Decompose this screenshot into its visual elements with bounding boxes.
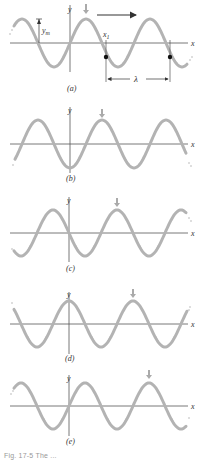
panel-label: (c) [66,264,75,273]
wave-dots-left [12,390,14,392]
panel-label: (a) [67,84,77,93]
x-axis-label: x [190,320,195,329]
wave-dots-left [11,248,13,250]
panel-e: x y (e) [10,370,195,446]
y-axis-label: y [66,374,71,383]
wave-dots-left [12,164,14,166]
y-axis-label: y [66,196,71,205]
y-axis-label: y [66,290,71,299]
crest-marker-arrow-icon [146,370,152,379]
panel-label: (e) [66,437,75,446]
traveling-wave-figure: x y ym x1 λ (a) x y [0,0,203,463]
y-axis-label: y [67,106,72,115]
amplitude-label: ym [41,26,51,36]
wave-dots-right [189,306,191,308]
wave-dots-right [188,309,190,311]
wave-dots-left [9,33,11,35]
point-x1-plus-lambda-dot [168,55,172,59]
wave-dots-right [190,220,192,222]
panel-label: (d) [65,354,75,363]
point-x1-dot [104,55,108,59]
panel-a: x y ym x1 λ (a) [9,4,195,93]
wavelength-label: λ [133,74,138,84]
wave-dots-right [188,217,190,219]
figure-caption: Fig. 17-5 The ... [4,452,57,459]
panel-d: x y (d) [10,289,195,363]
wave-dots-right [188,162,190,164]
crest-marker-arrow-icon [130,289,136,298]
wave-dots-right [191,56,193,58]
wave-dots-left [11,29,13,31]
x-axis-label: x [190,402,195,411]
panel-label: (b) [66,174,76,183]
panel-b: x y (b) [10,106,195,183]
wave-dots-right [189,59,191,61]
x-axis-label: x [190,229,195,238]
crest-marker-arrow-icon [114,198,120,207]
crest-marker-arrow-icon [99,109,105,118]
x-axis-label: x [190,39,195,48]
wave-dots-left [11,302,13,304]
position-label: x1 [102,30,110,40]
x-axis-label: x [190,140,195,149]
wave-dots-right [190,165,192,167]
amplitude-arrowhead-icon [37,19,41,24]
crest-marker-arrow-icon [83,4,89,14]
panel-c: x y (c) [10,196,195,273]
y-axis-label: y [67,5,72,14]
wave-dots-left [10,393,12,395]
wave-dots-right [188,417,190,419]
